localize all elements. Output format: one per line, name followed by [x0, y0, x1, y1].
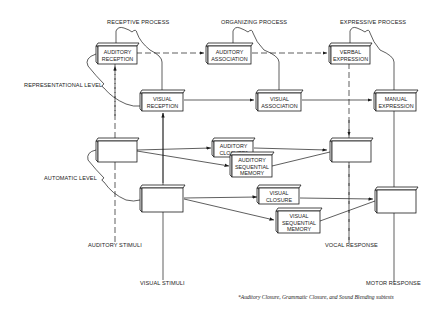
column-label-organizing: ORGANIZING PROCESS: [221, 19, 287, 25]
column-label-receptive: RECEPTIVE PROCESS: [107, 19, 169, 25]
box-auditory-association: AUDITORY ASSOCIATION: [206, 43, 253, 64]
svg-text:VISUAL: VISUAL: [289, 213, 308, 219]
svg-text:MEMORY: MEMORY: [287, 226, 312, 232]
svg-text:MANUAL: MANUAL: [385, 96, 407, 102]
box-visual-reception: VISUAL RECEPTION: [140, 90, 185, 111]
svg-text:EXPRESSION: EXPRESSION: [333, 56, 368, 62]
box-visual-automatic-input: [140, 185, 185, 212]
svg-text:ASSOCIATION: ASSOCIATION: [211, 56, 248, 62]
box-auditory-automatic-input: [96, 138, 139, 162]
svg-text:VERBAL: VERBAL: [340, 49, 361, 55]
level-label-automatic: AUTOMATIC LEVEL: [44, 175, 97, 181]
box-manual-expression: MANUAL EXPRESSION: [374, 90, 418, 111]
box-auditory-automatic-output: [330, 138, 373, 162]
level-label-representational: REPRESENTATIONAL LEVEL: [24, 82, 102, 88]
box-visual-closure: VISUAL CLOSURE: [257, 185, 301, 204]
svg-text:EXPRESSION: EXPRESSION: [378, 103, 413, 109]
svg-text:ASSOCIATION: ASSOCIATION: [261, 103, 298, 109]
svg-text:CLOSURE: CLOSURE: [266, 197, 292, 203]
svg-text:RECEPTION: RECEPTION: [102, 56, 134, 62]
svg-text:AUDITORY: AUDITORY: [104, 49, 132, 55]
svg-text:MEMORY: MEMORY: [240, 170, 265, 176]
box-verbal-expression: VERBAL EXPRESSION: [329, 43, 372, 64]
box-auditory-reception: AUDITORY RECEPTION: [96, 43, 139, 64]
label-visual-stimuli: VISUAL STIMULI: [140, 280, 185, 286]
svg-text:VISUAL: VISUAL: [269, 190, 288, 196]
svg-text:AUDITORY: AUDITORY: [220, 143, 248, 149]
label-vocal-response: VOCAL RESPONSE: [325, 242, 378, 248]
svg-text:SEQUENTIAL: SEQUENTIAL: [282, 220, 316, 226]
box-visual-sequential-memory: VISUAL SEQUENTIAL MEMORY: [276, 208, 322, 233]
box-visual-association: VISUAL ASSOCIATION: [256, 90, 303, 111]
svg-text:SEQUENTIAL: SEQUENTIAL: [235, 164, 269, 170]
svg-text:AUDITORY: AUDITORY: [216, 49, 244, 55]
box-auditory-sequential-memory: AUDITORY SEQUENTIAL MEMORY: [230, 152, 274, 177]
svg-text:RECEPTION: RECEPTION: [147, 103, 179, 109]
box-visual-automatic-output: [375, 187, 418, 213]
footnote: *Auditory Closure, Grammatic Closure, an…: [238, 294, 394, 300]
column-label-expressive: EXPRESSIVE PROCESS: [340, 19, 406, 25]
label-auditory-stimuli: AUDITORY STIMULI: [88, 242, 142, 248]
svg-text:AUDITORY: AUDITORY: [238, 157, 266, 163]
svg-text:VISUAL: VISUAL: [270, 96, 289, 102]
svg-text:VISUAL: VISUAL: [153, 96, 172, 102]
itpa-model-diagram: RECEPTIVE PROCESS ORGANIZING PROCESS EXP…: [0, 0, 440, 314]
label-motor-response: MOTOR RESPONSE: [366, 280, 421, 286]
